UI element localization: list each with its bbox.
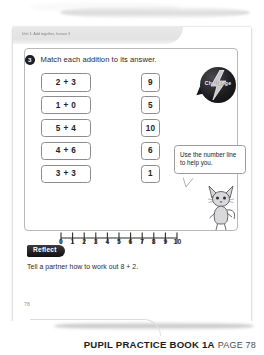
- question-number-badge: 3: [25, 55, 35, 65]
- question-heading: 3 Match each addition to its answer.: [25, 55, 157, 65]
- hint-speech-bubble: Use the number line to help you.: [174, 145, 246, 174]
- number-line-tick-label: 10: [174, 238, 182, 245]
- footer-bar: PUPIL PRACTICE BOOK 1APAGE 78: [0, 321, 264, 355]
- number-line-tick-label: 4: [105, 238, 109, 245]
- number-line-labels: 0 1 2 3 4 5 6 7 8 9 10: [57, 238, 181, 249]
- textbook-page-sheet: Unit 1: Add together, lesson 3 3 Match e…: [13, 27, 251, 323]
- question-prompt: Match each addition to its answer.: [41, 55, 157, 64]
- addition-box[interactable]: 2 + 3: [41, 73, 91, 92]
- page-number: 78: [24, 301, 30, 307]
- answer-box[interactable]: 9: [141, 73, 160, 92]
- addition-box[interactable]: 4 + 6: [41, 142, 91, 161]
- speech-bubble-tail: [183, 177, 195, 187]
- footer-page-label: PAGE 78: [218, 340, 256, 350]
- number-line-tick-label: 1: [71, 238, 75, 245]
- challenge-badge: Challenge: [196, 65, 238, 107]
- number-line-tick-label: 2: [82, 238, 86, 245]
- number-line-tick-label: 3: [94, 238, 98, 245]
- answer-box[interactable]: 1: [141, 165, 160, 184]
- addition-box[interactable]: 5 + 4: [41, 119, 91, 138]
- number-line-tick-label: 7: [140, 238, 144, 245]
- addition-column: 2 + 3 1 + 0 5 + 4 4 + 6 3 + 3: [41, 73, 91, 183]
- answer-box[interactable]: 10: [141, 119, 160, 138]
- answer-box[interactable]: 6: [141, 142, 160, 161]
- number-line-tick-label: 5: [117, 238, 121, 245]
- running-head-text: Unit 1: Add together, lesson 3: [22, 32, 70, 37]
- number-line-tick-label: 6: [129, 238, 133, 245]
- number-line-tick-label: 0: [59, 238, 63, 245]
- reflect-prompt: Tell a partner how to work out 8 + 2.: [27, 263, 138, 270]
- addition-box[interactable]: 3 + 3: [41, 165, 91, 184]
- page-top-shadow: [60, 6, 250, 19]
- challenge-badge-label: Challenge: [196, 80, 240, 86]
- number-line-tick-label: 8: [152, 238, 156, 245]
- addition-box[interactable]: 1 + 0: [41, 96, 91, 115]
- cat-character-illustration: [203, 183, 239, 231]
- footer-book-title: PUPIL PRACTICE BOOK 1A: [84, 339, 215, 350]
- reflect-badge: Reflect: [27, 245, 65, 257]
- answer-box[interactable]: 5: [141, 96, 160, 115]
- number-line-tick-label: 9: [163, 238, 167, 245]
- footer-caption: PUPIL PRACTICE BOOK 1APAGE 78: [0, 334, 256, 352]
- answer-column: 9 5 10 6 1: [141, 73, 160, 183]
